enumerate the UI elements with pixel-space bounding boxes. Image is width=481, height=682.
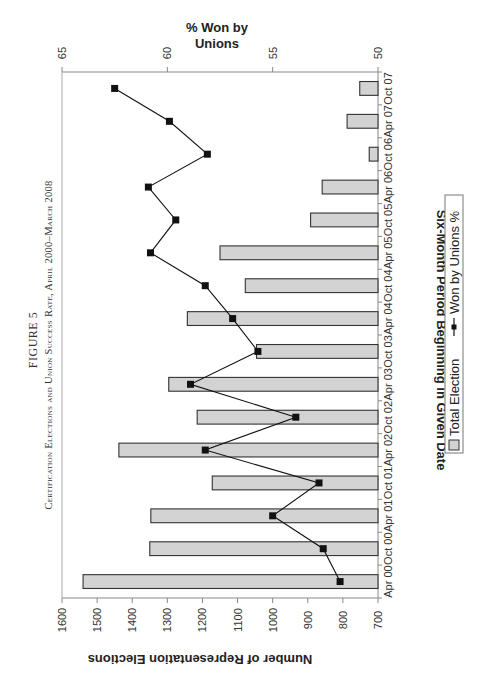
chart: FIGURE 5 Certification Elections and Uni… bbox=[0, 0, 481, 682]
point-oct-02 bbox=[292, 414, 299, 421]
figure-caption: FIGURE 5 Certification Elections and Uni… bbox=[26, 180, 54, 509]
category-label: Apr 06 bbox=[382, 171, 394, 203]
secondary-axis-title: % Won byUnions bbox=[186, 20, 249, 51]
category-label: Oct 06 bbox=[382, 138, 394, 170]
bar-oct-06 bbox=[369, 147, 378, 161]
bar-apr-07 bbox=[347, 114, 378, 128]
point-oct-01 bbox=[316, 479, 323, 486]
point-apr-02 bbox=[202, 447, 209, 454]
bar-oct-07 bbox=[360, 82, 378, 96]
primary-tick-label: 1400 bbox=[126, 608, 138, 632]
primary-tick-label: 1100 bbox=[232, 608, 244, 632]
point-apr-04 bbox=[229, 315, 236, 322]
category-label: Apr 02 bbox=[382, 434, 394, 466]
secondary-tick-label: 50 bbox=[372, 47, 384, 59]
point-oct-03 bbox=[254, 348, 261, 355]
primary-tick-label: 1200 bbox=[196, 608, 208, 632]
secondary-tick-label: 60 bbox=[161, 47, 173, 59]
bar-oct-01 bbox=[212, 476, 378, 490]
point-apr-01 bbox=[269, 512, 276, 519]
category-label: Oct 01 bbox=[382, 467, 394, 499]
primary-tick-label: 1600 bbox=[56, 608, 68, 632]
point-apr-00 bbox=[337, 578, 344, 585]
bar-oct-04 bbox=[245, 279, 378, 293]
category-label: Oct 05 bbox=[382, 204, 394, 236]
point-oct-00 bbox=[320, 545, 327, 552]
primary-tick-label: 1000 bbox=[267, 608, 279, 632]
point-apr-03 bbox=[187, 381, 194, 388]
category-label: Oct 00 bbox=[382, 532, 394, 564]
bar-apr-02 bbox=[119, 443, 378, 457]
point-oct-04 bbox=[202, 282, 209, 289]
secondary-tick-label: 65 bbox=[56, 47, 68, 59]
category-label: Apr 01 bbox=[382, 500, 394, 532]
category-label: Oct 02 bbox=[382, 401, 394, 433]
bar-apr-04 bbox=[187, 312, 378, 326]
primary-tick-label: 700 bbox=[372, 611, 384, 629]
bar-oct-02 bbox=[197, 410, 378, 424]
bar-oct-05 bbox=[311, 213, 378, 227]
secondary-tick-label: 55 bbox=[267, 47, 279, 59]
primary-tick-label: 900 bbox=[302, 611, 314, 629]
figure-label: FIGURE 5 bbox=[26, 312, 40, 368]
point-apr-05 bbox=[147, 249, 154, 256]
point-oct-05 bbox=[172, 216, 179, 223]
category-label: Apr 03 bbox=[382, 368, 394, 400]
primary-tick-label: 800 bbox=[337, 611, 349, 629]
point-apr-07 bbox=[166, 118, 173, 125]
legend-bar-swatch bbox=[449, 440, 459, 450]
point-oct-07 bbox=[111, 85, 118, 92]
bar-oct-00 bbox=[150, 542, 378, 556]
bar-oct-03 bbox=[257, 345, 378, 359]
bar-apr-06 bbox=[322, 180, 378, 194]
bar-apr-01 bbox=[151, 509, 378, 523]
legend: Total Election Won by Unions % bbox=[445, 195, 463, 453]
primary-tick-label: 1300 bbox=[161, 608, 173, 632]
category-label: Apr 07 bbox=[382, 105, 394, 137]
category-axis-ticks: Apr 00Oct 00Apr 01Oct 01Apr 02Oct 02Apr … bbox=[378, 72, 394, 598]
won-by-unions-line bbox=[115, 88, 340, 581]
legend-label-won-by-unions: Won by Unions % bbox=[447, 210, 462, 314]
figure-title: Certification Elections and Union Succes… bbox=[43, 180, 54, 509]
bar-series bbox=[83, 82, 378, 589]
primary-axis-ticks: 7008009001000110012001300140015001600 bbox=[56, 598, 384, 632]
bar-apr-05 bbox=[220, 246, 378, 260]
category-label: Apr 05 bbox=[382, 237, 394, 269]
primary-tick-label: 1500 bbox=[91, 608, 103, 632]
category-label: Oct 03 bbox=[382, 335, 394, 367]
bar-apr-00 bbox=[83, 575, 378, 589]
legend-label-total-election: Total Election bbox=[447, 359, 462, 436]
category-label: Apr 04 bbox=[382, 302, 394, 334]
category-label: Oct 07 bbox=[382, 72, 394, 104]
point-apr-06 bbox=[145, 184, 152, 191]
primary-axis-title: Number of Representation Elections bbox=[88, 652, 313, 667]
secondary-axis-title-line: % Won by bbox=[186, 20, 249, 35]
category-label: Apr 00 bbox=[382, 565, 394, 597]
point-oct-06 bbox=[204, 151, 211, 158]
secondary-axis-title-line: Unions bbox=[195, 36, 239, 51]
category-label: Oct 04 bbox=[382, 269, 394, 301]
legend-line-marker bbox=[452, 325, 457, 330]
